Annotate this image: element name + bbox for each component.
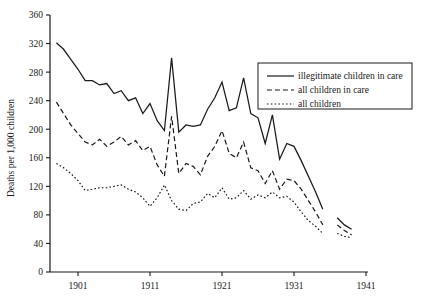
y-tick-label: 160 xyxy=(29,153,44,163)
y-tick-label: 0 xyxy=(38,267,43,277)
legend-group: illegitimate children in careall childre… xyxy=(258,63,412,109)
legend-label-0: illegitimate children in care xyxy=(298,71,403,81)
x-tick-label: 1941 xyxy=(357,281,376,291)
x-tick-label: 1911 xyxy=(141,281,160,291)
y-tick-label: 80 xyxy=(34,210,44,220)
y-tick-label: 240 xyxy=(29,96,44,106)
series-line-2 xyxy=(56,163,322,233)
series-line-2-segment-0 xyxy=(337,233,351,237)
axes-group xyxy=(46,15,368,276)
y-tick-label: 320 xyxy=(29,39,44,49)
x-tick-label: 1931 xyxy=(285,281,304,291)
series-line-1 xyxy=(56,102,322,225)
series-line-1-segment-0 xyxy=(337,225,351,235)
legend-label-2: all children xyxy=(298,99,341,109)
series-line-0-segment-0 xyxy=(337,218,351,229)
line-chart: 0408012016020024028032036019011911192119… xyxy=(0,0,423,299)
y-tick-label: 40 xyxy=(34,239,44,249)
legend-label-1: all children in care xyxy=(298,85,369,95)
y-tick-label: 200 xyxy=(29,125,44,135)
y-tick-label: 280 xyxy=(29,68,44,78)
x-tick-label: 1921 xyxy=(213,281,232,291)
chart-container: 0408012016020024028032036019011911192119… xyxy=(0,0,423,299)
x-tick-label: 1901 xyxy=(69,281,88,291)
y-tick-label: 360 xyxy=(29,10,44,20)
y-axis-title: Deaths per 1,000 children xyxy=(6,99,16,197)
y-tick-label: 120 xyxy=(29,182,44,192)
tick-labels-group: 0408012016020024028032036019011911192119… xyxy=(6,10,376,291)
